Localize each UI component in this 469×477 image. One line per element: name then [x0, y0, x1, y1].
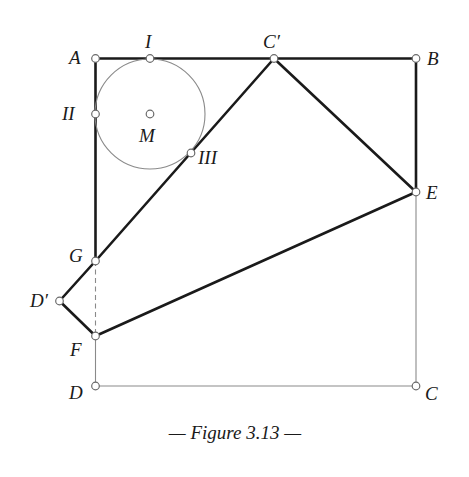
point-III — [187, 149, 195, 157]
figure-diagram: A B C D C′ D′ E F G M I II III — Figure … — [0, 0, 469, 477]
label-III: III — [197, 147, 219, 168]
label-I: I — [144, 31, 153, 52]
figure-caption: — Figure 3.13 — — [168, 422, 301, 443]
point-Cp — [270, 55, 278, 63]
label-II: II — [61, 103, 76, 124]
label-G: G — [69, 245, 83, 266]
label-E: E — [425, 182, 438, 203]
segment-Cp-E — [274, 59, 416, 193]
label-C-prime: C′ — [263, 31, 281, 52]
label-F: F — [69, 339, 82, 360]
point-B — [412, 55, 420, 63]
point-F — [92, 332, 100, 340]
segment-F-Dp — [60, 301, 96, 336]
point-M — [146, 110, 154, 118]
point-II — [92, 110, 100, 118]
segment-E-F — [96, 192, 417, 336]
label-D-prime: D′ — [29, 290, 49, 311]
point-E — [412, 188, 420, 196]
label-A: A — [67, 47, 81, 68]
label-D: D — [68, 382, 83, 403]
point-G — [92, 257, 100, 265]
segment-G-Cp — [96, 59, 275, 262]
point-I — [146, 55, 154, 63]
point-C — [412, 382, 420, 390]
segment-Dp-G — [60, 261, 96, 301]
point-A — [92, 55, 100, 63]
label-C: C — [425, 383, 438, 404]
point-D — [92, 382, 100, 390]
label-B: B — [427, 48, 439, 69]
point-Dp — [56, 297, 64, 305]
label-M: M — [138, 125, 156, 146]
